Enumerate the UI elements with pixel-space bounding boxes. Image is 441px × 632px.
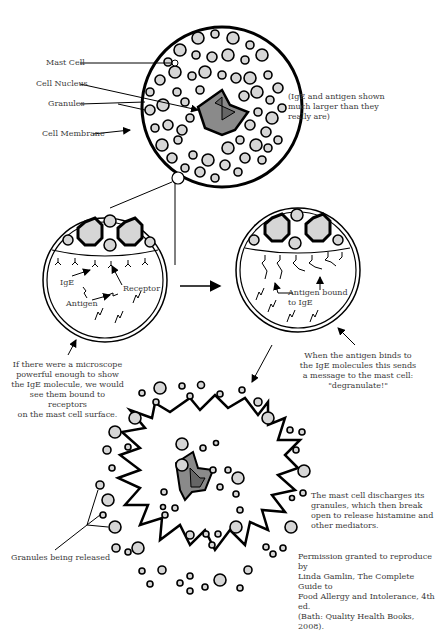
caption-line: other mediators. [311, 521, 436, 531]
caption-line: When the antigen binds to [298, 351, 418, 361]
caption-line: see them bound to receptors [10, 390, 125, 410]
caption-line: open to release histamine and [311, 511, 436, 521]
caption-line: "degranulate!" [298, 381, 418, 391]
label-antigen-bound: Antigen bound to IgE [288, 288, 348, 308]
label-granules: Granules [48, 99, 85, 109]
credit-line: Linda Gamlin, The Complete Guide to [298, 572, 438, 592]
scale-note-line: (IgE and antigen shown [288, 92, 408, 102]
label-cell-membrane: Cell Membrane [42, 129, 105, 139]
credit-line: (Bath: Quality Health Books, 2008). [298, 612, 438, 632]
label-mast-cell: Mast Cell [46, 58, 85, 68]
caption-line: granules, which then break [311, 501, 436, 511]
scale-note-line: really are) [288, 112, 408, 122]
credit-line: Food Allergy and Intolerance, 4th ed. [298, 592, 438, 612]
credit-line: Permission granted to reproduce by [298, 552, 438, 572]
label-antigen: Antigen [66, 299, 98, 309]
label-ige: IgE [60, 278, 74, 288]
caption-line: a message to the mast cell: [298, 371, 418, 381]
scale-note-line: much larger than they [288, 102, 408, 112]
caption-left: If there were a microscope powerful enou… [10, 360, 125, 420]
label-receptor: Receptor [123, 284, 160, 294]
label-cell-nucleus: Cell Nucleus [36, 79, 88, 89]
caption-line: the IgE molecules this sends [298, 361, 418, 371]
label-antigen-bound-line: to IgE [288, 298, 348, 308]
caption-bottom: The mast cell discharges its granules, w… [311, 491, 436, 531]
caption-line: the IgE molecule, we would [10, 380, 125, 390]
credit: Permission granted to reproduce by Linda… [298, 552, 438, 632]
caption-line: The mast cell discharges its [311, 491, 436, 501]
caption-line: powerful enough to show [10, 370, 125, 380]
scale-note: (IgE and antigen shown much larger than … [288, 92, 408, 122]
label-granules-released: Granules being released [11, 553, 110, 563]
caption-right: When the antigen binds to the IgE molecu… [298, 351, 418, 391]
label-antigen-bound-line: Antigen bound [288, 288, 348, 298]
caption-line: on the mast cell surface. [10, 410, 125, 420]
top-mast-cell [142, 27, 302, 187]
caption-line: If there were a microscope [10, 360, 125, 370]
